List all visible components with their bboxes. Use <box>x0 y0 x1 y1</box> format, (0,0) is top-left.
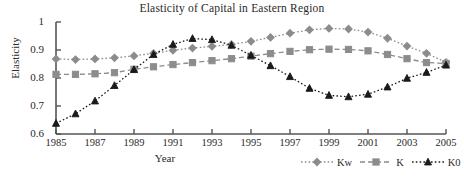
diamond-marker <box>267 34 274 41</box>
triangle-marker <box>384 83 391 90</box>
plot-area <box>0 0 464 178</box>
diamond-marker <box>326 25 333 32</box>
legend-swatch-square-icon <box>359 156 393 168</box>
square-marker <box>404 56 410 62</box>
diamond-marker <box>72 56 79 63</box>
square-marker <box>423 60 429 66</box>
square-marker <box>373 159 379 165</box>
diamond-marker <box>131 52 138 59</box>
square-marker <box>92 71 98 77</box>
square-marker <box>53 71 59 77</box>
square-marker <box>72 71 78 77</box>
square-marker <box>228 56 234 62</box>
diamond-marker <box>209 43 216 50</box>
triangle-marker <box>424 158 431 165</box>
diamond-marker <box>53 56 60 63</box>
square-marker <box>345 46 351 52</box>
diamond-marker <box>111 54 118 61</box>
square-marker <box>267 51 273 57</box>
triangle-marker <box>306 85 313 92</box>
triangle-marker <box>170 41 177 48</box>
diamond-marker <box>287 30 294 37</box>
triangle-marker <box>287 73 294 80</box>
diamond-marker <box>384 35 391 42</box>
legend-label: K <box>395 157 404 168</box>
square-marker <box>150 64 156 70</box>
chart-legend: KwKK0 <box>300 156 461 168</box>
legend-swatch-diamond-icon <box>300 156 334 168</box>
legend-item-K0[interactable]: K0 <box>411 156 461 168</box>
legend-swatch-triangle-icon <box>411 156 445 168</box>
diamond-marker <box>365 29 372 36</box>
chart-figure: Elasticity of Capital in Eastern Region … <box>0 0 464 178</box>
diamond-marker <box>92 56 99 63</box>
triangle-marker <box>423 69 430 76</box>
series-K0 <box>53 35 450 127</box>
square-marker <box>306 47 312 53</box>
diamond-marker <box>345 26 352 33</box>
triangle-marker <box>345 93 352 100</box>
square-marker <box>365 48 371 54</box>
triangle-marker <box>53 120 60 127</box>
square-marker <box>170 61 176 67</box>
square-marker <box>111 70 117 76</box>
legend-label: Kw <box>336 157 352 168</box>
legend-label: K0 <box>447 157 461 168</box>
triangle-marker <box>92 97 99 104</box>
diamond-marker <box>170 47 177 54</box>
diamond-marker <box>404 43 411 50</box>
square-marker <box>384 51 390 57</box>
diamond-marker <box>306 26 313 33</box>
triangle-marker <box>267 62 274 69</box>
square-marker <box>287 48 293 54</box>
legend-item-Kw[interactable]: Kw <box>300 156 352 168</box>
triangle-marker <box>72 110 79 117</box>
square-marker <box>189 60 195 66</box>
diamond-marker <box>314 159 321 166</box>
diamond-marker <box>189 45 196 52</box>
legend-item-K[interactable]: K <box>359 156 404 168</box>
square-marker <box>326 46 332 52</box>
diamond-marker <box>248 38 255 45</box>
square-marker <box>209 58 215 64</box>
diamond-marker <box>423 50 430 57</box>
